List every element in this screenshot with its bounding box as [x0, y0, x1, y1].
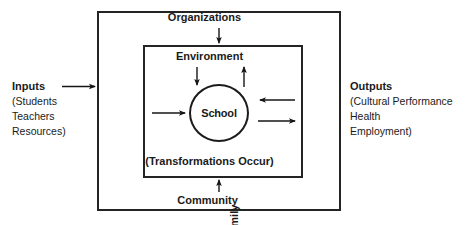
community-label: Community: [0, 194, 441, 207]
inputs-line-1: (Students: [12, 94, 66, 109]
outputs-line-2: Health: [350, 109, 453, 124]
inputs-line-3: Resources): [12, 124, 66, 139]
individual-label: Individual: [228, 0, 240, 225]
inputs-line-2: Teachers: [12, 109, 66, 124]
outputs-line-1: (Cultural Performance: [350, 94, 453, 109]
systems-model-diagram: School Organizations Environment (Transf…: [0, 0, 467, 225]
inputs-block: Inputs (Students Teachers Resources): [12, 79, 66, 139]
outputs-title: Outputs: [350, 79, 453, 94]
outputs-block: Outputs (Cultural Performance Health Emp…: [350, 79, 453, 139]
outputs-line-3: Employment): [350, 124, 453, 139]
inputs-title: Inputs: [12, 79, 66, 94]
school-node: School: [189, 84, 249, 142]
transformations-occur-label: (Transformations Occur): [0, 155, 443, 168]
environment-label: Environment: [0, 50, 443, 63]
organizations-label: Organizations: [0, 11, 438, 24]
